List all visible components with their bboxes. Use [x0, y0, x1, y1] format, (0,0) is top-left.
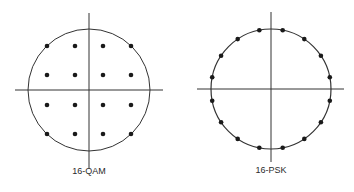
symbol-point [101, 132, 106, 137]
symbol-point [129, 103, 134, 108]
symbol-point [319, 53, 324, 58]
symbol-point [45, 73, 50, 78]
symbol-point [257, 146, 262, 151]
symbol-point [210, 98, 215, 103]
constellation-diagrams: 16-QAM 16-PSK [0, 0, 354, 192]
symbol-point [73, 73, 78, 78]
symbol-point [257, 28, 262, 33]
symbol-point [280, 28, 285, 33]
symbol-point [129, 44, 134, 49]
qam-label: 16-QAM [72, 166, 106, 176]
symbol-point [210, 75, 215, 80]
symbol-point [45, 103, 50, 108]
symbol-point [129, 132, 134, 137]
psk-constellation: 16-PSK [197, 12, 344, 175]
symbol-point [219, 53, 224, 58]
psk-label: 16-PSK [255, 165, 286, 175]
symbol-point [101, 103, 106, 108]
symbol-point [73, 132, 78, 137]
symbol-point [45, 44, 50, 49]
symbol-point [129, 73, 134, 78]
qam-constellation: 16-QAM [15, 13, 163, 176]
symbol-point [101, 44, 106, 49]
symbol-point [302, 37, 307, 42]
symbol-point [235, 37, 240, 42]
symbol-point [328, 98, 333, 103]
symbol-point [219, 120, 224, 125]
symbol-point [328, 75, 333, 80]
symbol-point [302, 137, 307, 142]
symbol-point [101, 73, 106, 78]
symbol-point [280, 146, 285, 151]
symbol-point [73, 103, 78, 108]
symbol-point [73, 44, 78, 49]
symbol-point [319, 120, 324, 125]
symbol-point [235, 137, 240, 142]
symbol-point [45, 132, 50, 137]
